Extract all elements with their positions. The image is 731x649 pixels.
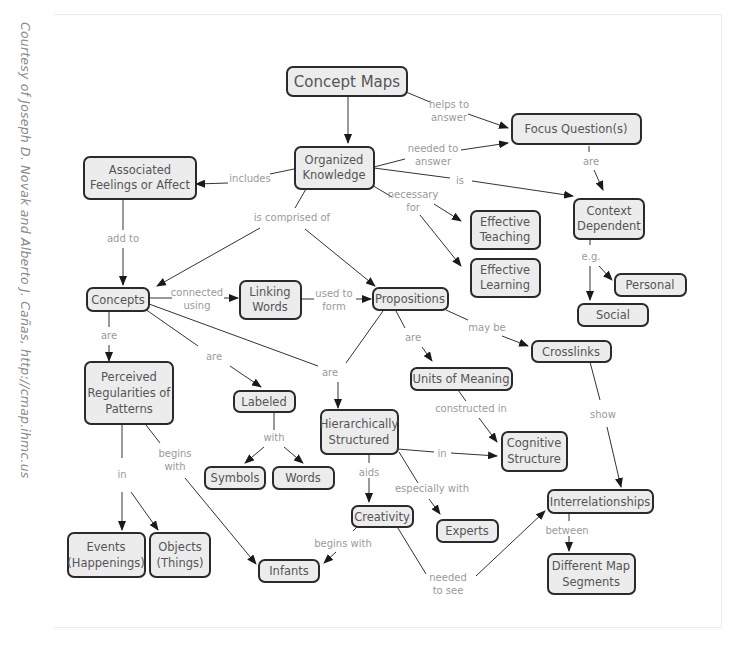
node-words[interactable]: Words (273, 467, 334, 489)
svg-text:Labeled: Labeled (241, 395, 286, 409)
link-are-labeled: are (206, 351, 222, 362)
svg-text:Focus Question(s): Focus Question(s) (525, 122, 628, 136)
link-is: is (456, 175, 464, 186)
svg-text:Personal: Personal (626, 278, 675, 292)
node-perceived-regularities[interactable]: PerceivedRegularities ofPatterns (85, 362, 173, 424)
link-necessary-for: necessary (388, 189, 439, 200)
link-especially-with: especially with (395, 483, 469, 494)
link-constructed-in: constructed in (435, 403, 507, 414)
node-infants[interactable]: Infants (259, 560, 319, 582)
node-events[interactable]: Events(Happenings) (67, 533, 145, 577)
link-in-patterns: in (117, 469, 126, 480)
svg-text:Symbols: Symbols (211, 471, 260, 485)
svg-text:Social: Social (596, 308, 630, 322)
svg-text:Crosslinks: Crosslinks (542, 345, 600, 359)
node-effective-teaching[interactable]: EffectiveTeaching (471, 211, 540, 249)
link-helps-to-answer: helps to (429, 99, 469, 110)
node-concept-maps[interactable]: Concept Maps (287, 67, 407, 96)
node-labeled[interactable]: Labeled (234, 391, 295, 412)
link-are-propositions: are (405, 332, 421, 343)
link-are-hierarchical: are (322, 367, 338, 378)
node-propositions[interactable]: Propositions (373, 288, 448, 310)
link-eg: e.g. (582, 251, 601, 262)
svg-text:Experts: Experts (445, 524, 489, 538)
node-cognitive-structure[interactable]: CognitiveStructure (502, 432, 567, 471)
node-symbols[interactable]: Symbols (205, 467, 265, 489)
link-between: between (545, 525, 588, 536)
link-begins-with-creativity: begins with (314, 538, 372, 549)
svg-text:Propositions: Propositions (375, 292, 445, 306)
node-different-map-segments[interactable]: Different MapSegments (548, 554, 635, 594)
node-creativity[interactable]: Creativity (352, 506, 413, 527)
node-associated-feelings[interactable]: AssociatedFeelings or Affect (84, 157, 196, 199)
node-concepts[interactable]: Concepts (87, 288, 149, 311)
svg-text:Units of Meaning: Units of Meaning (413, 372, 510, 386)
node-focus-questions[interactable]: Focus Question(s) (512, 114, 641, 144)
node-objects[interactable]: Objects(Things) (150, 533, 210, 577)
svg-text:OrganizedKnowledge: OrganizedKnowledge (302, 153, 365, 182)
node-crosslinks[interactable]: Crosslinks (532, 341, 611, 362)
link-may-be: may be (468, 322, 505, 333)
link-are-concepts: are (101, 330, 117, 341)
link-add-to: add to (107, 233, 139, 244)
link-aids: aids (359, 467, 379, 478)
svg-text:connectedusing: connectedusing (171, 287, 223, 311)
link-connected-using: connected (171, 287, 223, 298)
link-in-cognitive: in (437, 448, 446, 459)
node-linking-words[interactable]: LinkingWords (240, 281, 301, 319)
svg-text:Infants: Infants (269, 564, 309, 578)
link-are-focus: are (583, 156, 599, 167)
svg-text:Creativity: Creativity (354, 510, 410, 524)
node-hierarchically-structured[interactable]: HierarchicallyStructured (320, 410, 399, 454)
svg-text:Concepts: Concepts (91, 293, 145, 307)
link-needed-to-see: needed (429, 572, 467, 583)
node-social[interactable]: Social (578, 304, 648, 326)
svg-text:beginswith: beginswith (158, 448, 191, 472)
svg-text:Concept Maps: Concept Maps (294, 73, 400, 91)
link-includes: includes (229, 173, 270, 184)
node-personal[interactable]: Personal (615, 274, 686, 296)
link-used-to-form: used to (315, 288, 352, 299)
node-effective-learning[interactable]: EffectiveLearning (471, 259, 540, 297)
node-experts[interactable]: Experts (437, 520, 498, 542)
link-needed-to-answer: needed to (408, 143, 459, 154)
svg-text:necessaryfor: necessaryfor (388, 189, 439, 213)
node-units-of-meaning[interactable]: Units of Meaning (411, 368, 512, 390)
link-with: with (263, 432, 284, 443)
concept-map: helps toanswer needed toanswer includes … (0, 0, 731, 649)
link-begins-with-patterns: begins (158, 448, 191, 459)
svg-text:EffectiveTeaching: EffectiveTeaching (479, 215, 531, 244)
svg-text:used toform: used toform (315, 288, 352, 312)
svg-text:EffectiveLearning: EffectiveLearning (480, 263, 530, 292)
svg-text:needed toanswer: needed toanswer (408, 143, 459, 167)
node-interrelationships[interactable]: Interrelationships (548, 490, 653, 513)
link-is-comprised-of: is comprised of (254, 212, 331, 223)
node-context-dependent[interactable]: ContextDependent (574, 199, 644, 239)
link-show: show (590, 409, 616, 420)
svg-text:LinkingWords: LinkingWords (249, 285, 290, 314)
svg-text:neededto see: neededto see (429, 572, 467, 596)
node-organized-knowledge[interactable]: OrganizedKnowledge (295, 147, 374, 189)
svg-text:Words: Words (285, 471, 321, 485)
svg-text:helps toanswer: helps toanswer (429, 99, 469, 123)
svg-text:Interrelationships: Interrelationships (550, 495, 650, 509)
